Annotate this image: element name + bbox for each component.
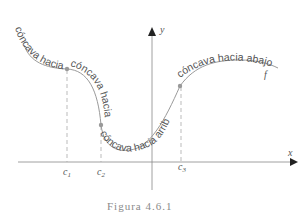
c3-label: c3 [178, 161, 186, 174]
inflection-point-3 [178, 84, 182, 88]
inflection-point-1 [65, 67, 69, 71]
region-label-3: cóncava hacia arriba [0, 0, 172, 154]
x-axis-label: x [287, 147, 293, 158]
figure: x y cóncava hacia arriba cóncava hacia a… [0, 0, 308, 213]
inflection-point-2 [99, 123, 103, 127]
y-axis-label: y [159, 24, 165, 35]
c2-label: c2 [97, 166, 105, 179]
x-axis: x [18, 147, 298, 166]
c1-label: c1 [63, 166, 71, 179]
y-axis: y [148, 24, 165, 190]
function-label: f [264, 69, 268, 80]
region-label-1: cóncava hacia arriba [0, 0, 65, 71]
figure-caption: Figura 4.6.1 [107, 200, 172, 212]
